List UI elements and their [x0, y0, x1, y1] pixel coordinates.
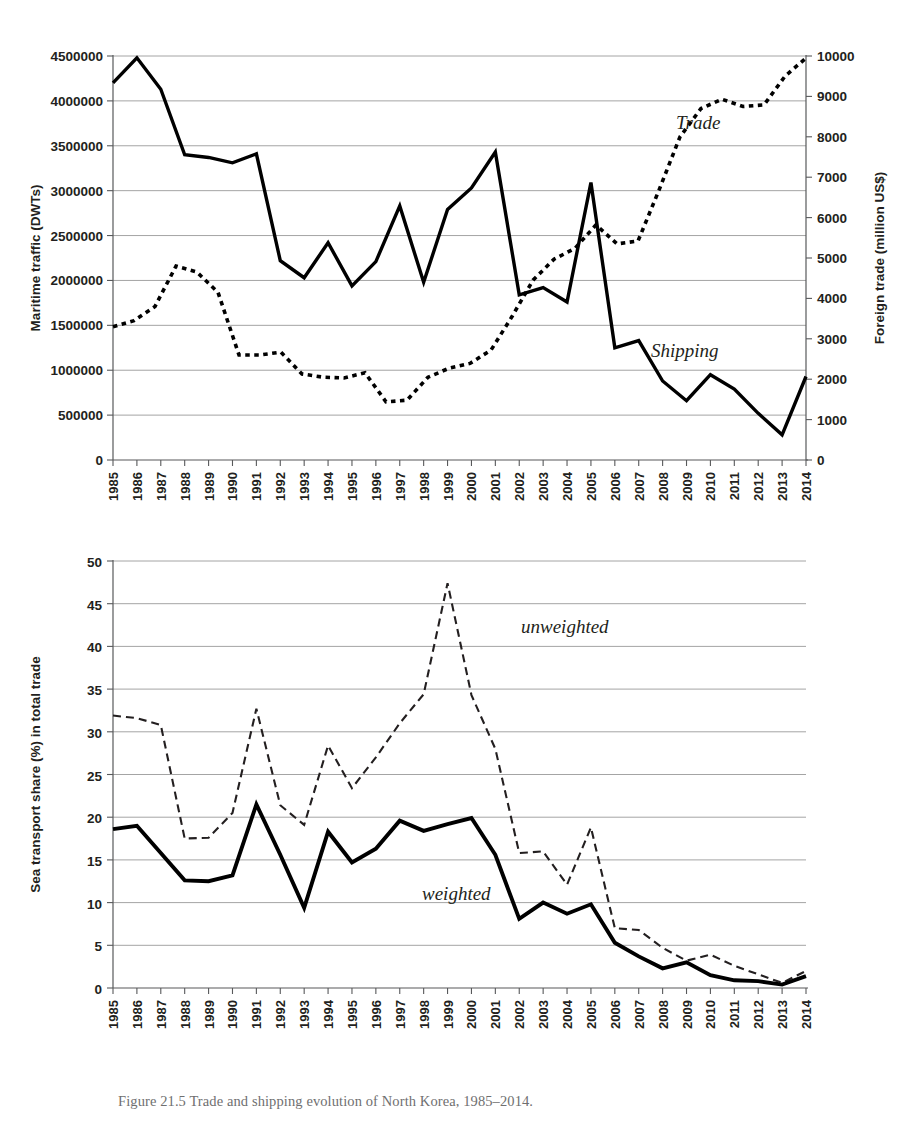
x-axis-tick-label: 2006 — [608, 1000, 623, 1029]
x-axis-tick-label: 2010 — [703, 1000, 718, 1029]
x-axis-tick-label: 2012 — [751, 1000, 766, 1029]
right-axis-tick-label: 1000 — [817, 413, 847, 428]
left-axis-tick-label: 4000000 — [50, 94, 103, 109]
left-axis-tick-label: 3000000 — [50, 184, 103, 199]
x-axis-tick-label: 1991 — [249, 1000, 264, 1029]
x-axis-tick-label: 1990 — [225, 472, 240, 501]
left-axis-tick-label: 5 — [94, 939, 102, 954]
left-axis-tick-label: 35 — [87, 683, 103, 698]
x-axis-tick-label: 2007 — [632, 1000, 647, 1029]
left-axis-tick-label: 0 — [94, 982, 102, 997]
x-axis-tick-label: 2013 — [775, 1000, 790, 1029]
series-label-weighted: weighted — [422, 883, 491, 904]
x-axis-tick-label: 2004 — [560, 999, 575, 1029]
x-axis-tick-label: 2002 — [512, 1000, 527, 1029]
x-axis-tick-label: 1989 — [202, 1000, 217, 1029]
x-axis-tick-label: 1994 — [321, 999, 336, 1029]
x-axis-tick-label: 1996 — [369, 472, 384, 501]
right-axis-tick-label: 5000 — [817, 251, 847, 266]
figure-caption: Figure 21.5 Trade and shipping evolution… — [118, 1093, 818, 1110]
x-axis-tick-label: 2000 — [464, 472, 479, 501]
x-axis-tick-label: 1985 — [106, 472, 121, 501]
right-axis-tick-label: 4000 — [817, 291, 847, 306]
x-axis-tick-label: 1989 — [202, 472, 217, 501]
left-axis-tick-label: 25 — [87, 769, 103, 784]
right-axis-tick-label: 6000 — [817, 211, 847, 226]
x-axis-tick-label: 1990 — [225, 1000, 240, 1029]
x-axis-tick-label: 2013 — [775, 472, 790, 501]
x-axis-tick-label: 2003 — [536, 472, 551, 501]
x-axis-tick-label: 1988 — [178, 472, 193, 501]
right-axis-tick-label: 8000 — [817, 130, 847, 145]
x-axis-tick-label: 2001 — [488, 472, 503, 501]
left-axis-tick-label: 1500000 — [50, 318, 103, 333]
x-axis-tick-label: 1988 — [178, 1000, 193, 1029]
x-axis-tick-label: 1993 — [297, 1000, 312, 1029]
x-axis-tick-label: 2010 — [703, 472, 718, 501]
x-axis-tick-label: 2004 — [560, 471, 575, 501]
right-axis-tick-label: 0 — [817, 453, 825, 468]
x-axis-tick-label: 1995 — [345, 1000, 360, 1029]
x-axis-tick-label: 2005 — [584, 472, 599, 501]
right-axis-tick-label: 9000 — [817, 89, 847, 104]
x-axis-tick-label: 2011 — [727, 472, 742, 500]
bottom-chart-panel: 0510152025303540455019851986198719881989… — [0, 540, 911, 1085]
x-axis-tick-label: 1996 — [369, 1000, 384, 1029]
x-axis-tick-label: 1986 — [130, 1000, 145, 1029]
left-axis-tick-label: 0 — [95, 453, 103, 468]
x-axis-tick-label: 2014 — [799, 471, 814, 501]
x-axis-tick-label: 2003 — [536, 1000, 551, 1029]
left-axis-tick-label: 50 — [87, 555, 102, 570]
x-axis-tick-label: 1991 — [249, 472, 264, 501]
left-axis-tick-label: 2500000 — [50, 229, 103, 244]
x-axis-tick-label: 1993 — [297, 472, 312, 501]
series-label-unweighted: unweighted — [521, 616, 609, 637]
top-chart-svg: 0500000100000015000002000000250000030000… — [0, 0, 911, 540]
x-axis-tick-label: 2014 — [799, 999, 814, 1029]
right-axis-tick-label: 10000 — [817, 49, 855, 64]
x-axis-tick-label: 2008 — [656, 1000, 671, 1029]
left-axis-tick-label: 40 — [87, 640, 102, 655]
series-unweighted-line — [113, 583, 806, 983]
left-axis-title: Maritime traffic (DWTs) — [28, 185, 43, 332]
right-axis-title: Foreign trade (million US$) — [872, 172, 887, 345]
left-axis-tick-label: 20 — [87, 811, 102, 826]
x-axis-tick-label: 1997 — [393, 1000, 408, 1029]
x-axis-tick-label: 2009 — [680, 472, 695, 501]
left-axis-tick-label: 500000 — [58, 408, 103, 423]
x-axis-tick-label: 1999 — [441, 1000, 456, 1029]
x-axis-tick-label: 1998 — [417, 1000, 432, 1029]
left-axis-tick-label: 2000000 — [50, 273, 103, 288]
x-axis-tick-label: 2007 — [632, 472, 647, 501]
right-axis-tick-label: 2000 — [817, 372, 847, 387]
left-axis-title: Sea transport share (%) in total trade — [28, 656, 43, 893]
left-axis-tick-label: 30 — [87, 726, 102, 741]
bottom-chart-svg: 0510152025303540455019851986198719881989… — [0, 540, 911, 1085]
x-axis-tick-label: 1986 — [130, 472, 145, 501]
x-axis-tick-label: 2008 — [656, 472, 671, 501]
left-axis-tick-label: 3500000 — [50, 139, 103, 154]
x-axis-tick-label: 1999 — [441, 472, 456, 501]
x-axis-tick-label: 1992 — [273, 1000, 288, 1029]
series-label-shipping: Shipping — [651, 340, 719, 361]
x-axis-tick-label: 2009 — [680, 1000, 695, 1029]
x-axis-tick-label: 1985 — [106, 1000, 121, 1029]
top-chart-panel: 0500000100000015000002000000250000030000… — [0, 0, 911, 540]
x-axis-tick-label: 1994 — [321, 471, 336, 501]
left-axis-tick-label: 15 — [87, 854, 103, 869]
x-axis-tick-label: 2012 — [751, 472, 766, 501]
x-axis-tick-label: 1992 — [273, 472, 288, 501]
series-label-trade: Trade — [676, 112, 720, 133]
x-axis-tick-label: 2011 — [727, 1000, 742, 1028]
x-axis-tick-label: 1995 — [345, 472, 360, 501]
x-axis-tick-label: 1998 — [417, 472, 432, 501]
x-axis-tick-label: 2005 — [584, 1000, 599, 1029]
x-axis-tick-label: 2001 — [488, 1000, 503, 1029]
x-axis-tick-label: 1997 — [393, 472, 408, 501]
right-axis-tick-label: 7000 — [817, 170, 847, 185]
x-axis-tick-label: 1987 — [154, 1000, 169, 1029]
x-axis-tick-label: 1987 — [154, 472, 169, 501]
right-axis-tick-label: 3000 — [817, 332, 847, 347]
x-axis-tick-label: 2002 — [512, 472, 527, 501]
x-axis-tick-label: 2006 — [608, 472, 623, 501]
